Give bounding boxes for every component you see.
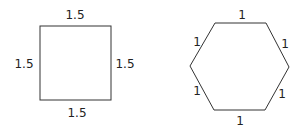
hexagon-top-left-label: 1 [193,35,201,49]
square-right-label: 1.5 [115,57,134,71]
hexagon-bottom-label: 1 [236,114,244,128]
square-left-label: 1.5 [14,57,33,71]
hexagon-bottom-left-label: 1 [193,84,201,98]
square-top-label: 1.5 [65,8,84,22]
hexagon-shape [190,23,289,110]
hexagon-top-right-label: 1 [281,37,289,51]
hexagon-bottom-right-label: 1 [278,87,286,101]
shapes-diagram: 1.5 1.5 1.5 1.5 1 1 1 1 1 1 [0,0,301,128]
hexagon-top-label: 1 [238,8,246,22]
square-shape [40,26,111,100]
square-bottom-label: 1.5 [67,106,86,120]
